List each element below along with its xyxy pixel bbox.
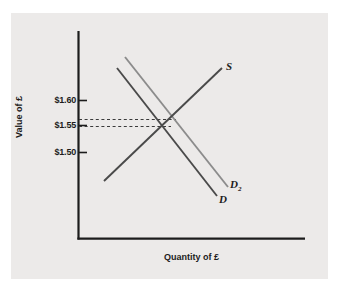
demand-shifted-curve-label: D2 xyxy=(230,178,241,193)
y-tick-label-160: $1.60 xyxy=(32,95,76,105)
chart-plot-area xyxy=(0,0,339,292)
supply-curve xyxy=(104,68,222,181)
y-tick-label-150: $1.50 xyxy=(32,147,76,157)
demand-shifted-label-text: D xyxy=(230,178,238,190)
x-axis-title: Quantity of £ xyxy=(78,252,305,262)
supply-curve-label: S xyxy=(226,60,232,72)
y-axis-title: Value of £ xyxy=(14,85,24,149)
figure-container: $1.60 $1.55 $1.50 Value of £ Quantity of… xyxy=(0,0,339,292)
y-tick-label-155: $1.55 xyxy=(32,120,76,130)
demand-shifted-label-subscript: 2 xyxy=(238,185,242,193)
demand-curve-label: D xyxy=(219,193,227,205)
